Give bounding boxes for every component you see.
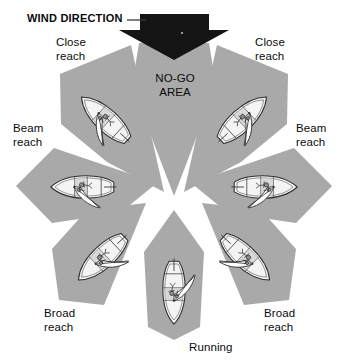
sector-running — [144, 210, 204, 340]
close-reach-stbd-label: Close reach — [255, 36, 285, 63]
beam-reach-stbd-label: Beam reach — [296, 122, 326, 149]
close-reach-port-label: Close reach — [56, 36, 86, 63]
broad-reach-stbd-label: Broad reach — [264, 307, 295, 334]
broad-reach-port-label: Broad reach — [44, 307, 75, 334]
wind-direction-arrow — [119, 14, 229, 60]
running-label: Running — [189, 341, 233, 355]
no-go-area-label: NO-GO AREA — [140, 71, 210, 99]
points-of-sail-diagram: WIND DIRECTION NO-GO AREA Close reach Cl… — [0, 0, 348, 364]
wind-direction-label: WIND DIRECTION — [27, 12, 123, 26]
beam-reach-port-label: Beam reach — [13, 122, 43, 149]
